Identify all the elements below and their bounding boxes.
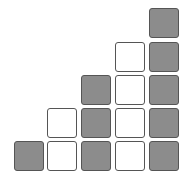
empty-square — [115, 108, 145, 138]
filled-square — [14, 141, 44, 171]
empty-square — [47, 141, 77, 171]
filled-square — [149, 42, 179, 72]
empty-square — [47, 108, 77, 138]
filled-square — [149, 8, 179, 38]
filled-square — [81, 108, 111, 138]
filled-square — [81, 141, 111, 171]
empty-square — [115, 141, 145, 171]
empty-square — [115, 42, 145, 72]
empty-square — [115, 75, 145, 105]
filled-square — [149, 141, 179, 171]
filled-square — [81, 75, 111, 105]
filled-square — [149, 75, 179, 105]
filled-square — [149, 108, 179, 138]
